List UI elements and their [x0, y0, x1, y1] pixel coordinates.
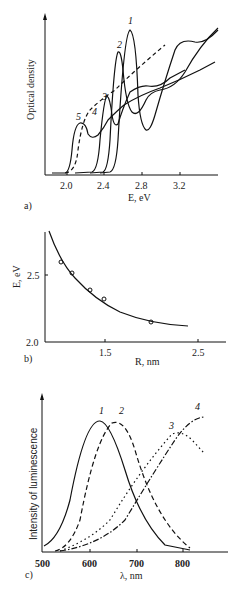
panel-c: 500 600 700 800 λ, nm c) Intensity of lu…: [25, 393, 228, 581]
x-axis-label: E, eV: [128, 192, 152, 203]
curve-label: 2: [117, 39, 122, 50]
x-tick-label: 600: [82, 558, 97, 569]
x-tick-label: 2.8: [135, 180, 148, 191]
x-tick-label: 800: [175, 558, 190, 569]
x-tick-label: 3.2: [173, 180, 186, 191]
y-axis-label: Intensity of luminescence: [28, 427, 39, 540]
x-tick-label: 2.4: [97, 180, 110, 191]
x-tick-label: 2.5: [192, 347, 205, 358]
curve-label: 1: [128, 15, 133, 26]
x-tick-label: 2.0: [60, 180, 73, 191]
y-tick-label: 2.0: [26, 337, 39, 348]
curve-label: 3: [168, 420, 174, 431]
x-tick-label: 1.5: [99, 347, 112, 358]
panel-label: a): [24, 200, 32, 212]
x-tick-label: 700: [129, 558, 144, 569]
y-axis-label: E, eV: [11, 264, 22, 288]
y-axis-arrow-icon: [43, 13, 47, 20]
panel-label: c): [25, 569, 33, 581]
curve-label: 2: [119, 405, 124, 416]
x-axis-label: λ, nm: [120, 570, 143, 581]
figure: 2.0 2.4 2.8 3.2 E, eV a) Optical density…: [0, 0, 241, 593]
curve-label: 5: [76, 111, 81, 122]
panel-b: 2.5 2.0 1.5 2.5 R, nm b) E, eV: [11, 231, 226, 367]
curve-label: 4: [195, 401, 200, 412]
y-axis-label: Optical density: [25, 59, 36, 120]
x-axis-label: R, nm: [135, 356, 160, 367]
panel-a: 2.0 2.4 2.8 3.2 E, eV a) Optical density…: [24, 13, 218, 212]
curve-label: 4: [92, 106, 97, 117]
y-tick-label: 2.5: [27, 270, 40, 281]
curve-label: 3: [101, 91, 107, 102]
y-axis-arrow-icon: [40, 393, 44, 400]
x-tick-label: 500: [35, 558, 50, 569]
panel-label: b): [24, 353, 32, 365]
curve-label: 1: [99, 405, 104, 416]
